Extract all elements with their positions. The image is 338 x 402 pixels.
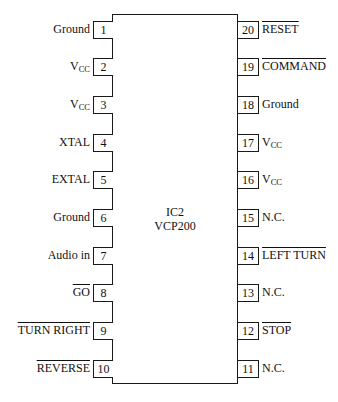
pin-box: 7 bbox=[93, 247, 113, 265]
chip-designator: IC2 bbox=[112, 205, 238, 219]
pin-box: 12 bbox=[238, 322, 259, 340]
pin-box: 14 bbox=[238, 247, 259, 265]
pin-box: 16 bbox=[238, 171, 259, 189]
pin-box: 19 bbox=[238, 58, 259, 76]
pin-box: 2 bbox=[93, 58, 113, 76]
pin-box: 1 bbox=[93, 21, 113, 39]
pin-box: 4 bbox=[93, 134, 113, 152]
pin-label: VCC bbox=[262, 171, 282, 190]
pin-label: Ground bbox=[53, 209, 90, 228]
ic-package-outline bbox=[112, 14, 238, 384]
pin-box: 17 bbox=[238, 134, 259, 152]
pin-box: 3 bbox=[93, 96, 113, 114]
pin-box: 18 bbox=[238, 96, 259, 114]
pin-label: Ground bbox=[53, 21, 90, 40]
pin-label: TURN RIGHT bbox=[18, 322, 90, 341]
pin-label: LEFT TURN bbox=[262, 247, 326, 266]
pin-label: N.C. bbox=[262, 284, 285, 303]
pin-label: STOP bbox=[262, 322, 291, 341]
pin-box: 9 bbox=[93, 322, 113, 340]
pin-label: VCC bbox=[262, 134, 282, 153]
pin-label: XTAL bbox=[59, 134, 90, 153]
pin-box: 13 bbox=[238, 284, 259, 302]
pin-box: 15 bbox=[238, 209, 259, 227]
pin-label: GO bbox=[73, 284, 90, 303]
pin-label: N.C. bbox=[262, 209, 285, 228]
pin-label: Ground bbox=[262, 96, 299, 115]
pin-label: N.C. bbox=[262, 360, 285, 379]
pin-label: VCC bbox=[70, 58, 90, 77]
chip-label: IC2 VCP200 bbox=[112, 205, 238, 233]
pin-label: REVERSE bbox=[37, 360, 90, 379]
pin-label: VCC bbox=[70, 96, 90, 115]
pin-box: 20 bbox=[238, 21, 259, 39]
pin-box: 5 bbox=[93, 171, 113, 189]
pin-box: 8 bbox=[93, 284, 113, 302]
pin-label: EXTAL bbox=[52, 171, 90, 190]
chip-part-number: VCP200 bbox=[112, 219, 238, 233]
pin-box: 6 bbox=[93, 209, 113, 227]
pin-label: RESET bbox=[262, 21, 299, 40]
pin-box: 11 bbox=[238, 360, 259, 378]
pin-label: COMMAND bbox=[262, 58, 326, 77]
pin-label: Audio in bbox=[48, 247, 90, 266]
pin-box: 10 bbox=[93, 360, 113, 378]
